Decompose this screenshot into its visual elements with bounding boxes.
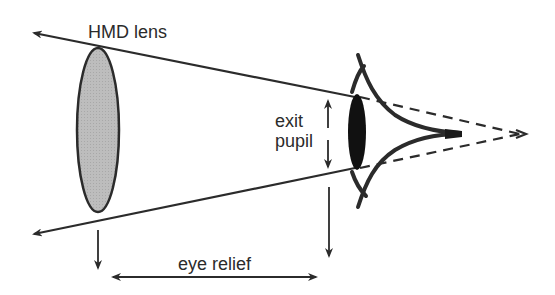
eye-pupil [348,94,366,170]
exit-pupil-label: exit pupil [275,111,313,151]
exit-pupil-label-line1: exit [275,111,313,131]
eye-outline [352,55,460,207]
lens-label: HMD lens [88,22,167,42]
eye-corner [445,129,462,139]
eye-relief-label: eye relief [178,254,251,274]
exit-pupil-label-line2: pupil [275,131,313,151]
hmd-lens-ellipse [77,48,119,212]
